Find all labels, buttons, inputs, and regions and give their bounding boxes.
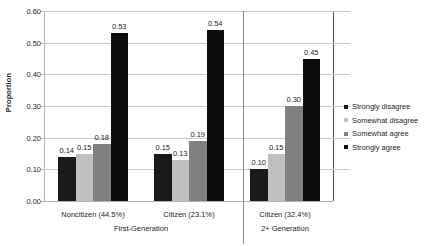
bar [285, 106, 303, 201]
category-label: Citizen (23.1%) [163, 210, 214, 219]
legend-swatch-icon [344, 118, 348, 122]
plot-area: 0.140.150.180.530.150.130.190.540.100.15… [44, 11, 333, 201]
y-tick-label: 0.30 [3, 102, 41, 111]
bar [303, 59, 321, 202]
bar-value-label: 0.45 [304, 48, 319, 57]
legend-item: Strongly disagree [344, 100, 433, 114]
bar-value-label: 0.15 [269, 143, 284, 152]
bar-value-label: 0.15 [155, 143, 170, 152]
legend-item: Strongly agree [344, 141, 433, 155]
bar [189, 141, 207, 201]
bar [111, 33, 129, 201]
legend-label: Somewhat disagree [352, 116, 418, 125]
bar [268, 154, 286, 202]
bar [172, 160, 190, 201]
chart-legend: Strongly disagreeSomewhat disagreeSomewh… [344, 100, 433, 154]
y-tick-label: 0.50 [3, 38, 41, 47]
legend-swatch-icon [344, 105, 348, 109]
y-tick-label: 0.10 [3, 165, 41, 174]
generation-group-label: 2+ Generation [261, 224, 309, 233]
bars-layer: 0.140.150.180.530.150.130.190.540.100.15… [44, 11, 333, 201]
bar-value-label: 0.10 [251, 158, 266, 167]
legend-label: Strongly agree [352, 143, 401, 152]
bar [250, 169, 268, 201]
legend-label: Somewhat agree [352, 129, 409, 138]
bar-value-label: 0.19 [190, 130, 205, 139]
bar-value-label: 0.13 [173, 149, 188, 158]
bar [207, 30, 225, 201]
bar-value-label: 0.30 [286, 95, 301, 104]
bar [58, 157, 76, 201]
bar [76, 154, 94, 202]
bar-value-label: 0.18 [94, 133, 109, 142]
bar [154, 154, 172, 202]
y-tick-label: 0.40 [3, 70, 41, 79]
generation-group-label: First-Generation [114, 224, 168, 233]
y-tick-label: 0.20 [3, 133, 41, 142]
legend-item: Somewhat disagree [344, 114, 433, 128]
category-label: Noncitizen (44.5%) [61, 210, 124, 219]
legend-item: Somewhat agree [344, 127, 433, 141]
y-axis-ticks: 0.000.100.200.300.400.500.60 [0, 11, 41, 201]
bar-value-label: 0.15 [77, 143, 92, 152]
bar [93, 144, 111, 201]
bar-value-label: 0.14 [59, 146, 74, 155]
bar-value-label: 0.54 [208, 19, 223, 28]
legend-swatch-icon [344, 132, 348, 136]
bar-chart: Proportion 0.000.100.200.300.400.500.60 … [0, 0, 433, 246]
legend-swatch-icon [344, 145, 348, 149]
y-tick-label: 0.60 [3, 7, 41, 16]
legend-label: Strongly disagree [352, 102, 410, 111]
category-label: Citizen (32.4%) [259, 210, 310, 219]
category-labels: Noncitizen (44.5%)Citizen (23.1%)Citizen… [44, 201, 333, 246]
y-tick-label: 0.00 [3, 197, 41, 206]
bar-value-label: 0.53 [112, 22, 127, 31]
